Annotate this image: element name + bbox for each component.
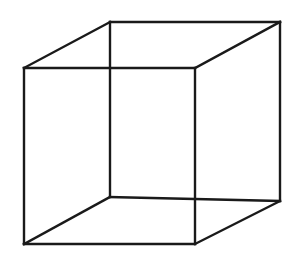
figure-canvas — [0, 0, 300, 274]
necker-cube-drawing — [0, 0, 300, 274]
